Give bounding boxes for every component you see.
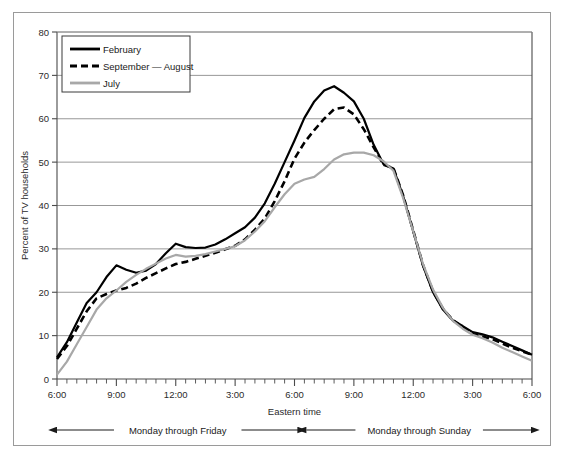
xtick-label-1: 9:00 bbox=[107, 389, 126, 400]
annotation-label-0: Monday through Friday bbox=[129, 425, 227, 436]
ytick-label-70: 70 bbox=[38, 70, 49, 81]
xtick-label-0: 6:00 bbox=[48, 389, 67, 400]
xtick-label-2: 12:00 bbox=[164, 389, 188, 400]
ytick-label-20: 20 bbox=[38, 287, 49, 298]
ytick-label-60: 60 bbox=[38, 113, 49, 124]
ytick-label-0: 0 bbox=[44, 374, 49, 385]
ytick-label-10: 10 bbox=[38, 330, 49, 341]
series-line-july bbox=[57, 153, 532, 375]
xtick-label-4: 6:00 bbox=[285, 389, 304, 400]
legend-label-1: September — August bbox=[103, 61, 194, 72]
x-axis-title: Eastern time bbox=[268, 406, 321, 417]
annotation-label-1: Monday through Sunday bbox=[367, 425, 471, 436]
series-line-september-august bbox=[57, 107, 532, 359]
xtick-label-3: 3:00 bbox=[226, 389, 245, 400]
legend-label-2: July bbox=[103, 78, 120, 89]
legend-label-0: February bbox=[103, 44, 141, 55]
ytick-label-50: 50 bbox=[38, 157, 49, 168]
y-axis-title: Percent of TV households bbox=[19, 151, 30, 260]
xtick-label-5: 9:00 bbox=[345, 389, 364, 400]
chart-figure: 010203040506070806:009:0012:003:006:009:… bbox=[0, 0, 564, 459]
ytick-label-40: 40 bbox=[38, 200, 49, 211]
ytick-label-30: 30 bbox=[38, 243, 49, 254]
xtick-label-7: 3:00 bbox=[463, 389, 482, 400]
xtick-label-6: 12:00 bbox=[401, 389, 425, 400]
series-line-february bbox=[57, 86, 532, 357]
ytick-label-80: 80 bbox=[38, 27, 49, 38]
tv-viewing-line-chart: 010203040506070806:009:0012:003:006:009:… bbox=[0, 0, 564, 459]
xtick-label-8: 6:00 bbox=[523, 389, 542, 400]
